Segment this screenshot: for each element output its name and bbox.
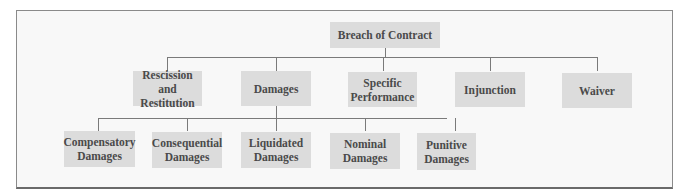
- node-liquidated-damages: Liquidated Damages: [241, 132, 311, 168]
- node-label: Rescission and Restitution: [136, 68, 199, 110]
- connector-to-injunction: [490, 57, 491, 71]
- connector-to-nominal: [365, 118, 366, 131]
- node-label: Waiver: [579, 84, 615, 98]
- connector-to-waiver: [597, 57, 598, 71]
- connector-to-damages: [276, 57, 277, 71]
- connector-damages-down: [276, 106, 277, 118]
- connector-to-compensatory: [98, 118, 99, 131]
- connector-level2-bar: [98, 118, 447, 119]
- node-label: Specific Performance: [351, 76, 415, 104]
- node-label: Compensatory Damages: [63, 135, 135, 163]
- connector-to-liquidated: [276, 118, 277, 131]
- node-label: Nominal Damages: [333, 137, 397, 165]
- node-label: Punitive Damages: [420, 138, 473, 166]
- node-rescission-and-restitution: Rescission and Restitution: [133, 71, 202, 106]
- node-nominal-damages: Nominal Damages: [330, 133, 400, 169]
- connector-to-consequential: [187, 118, 188, 131]
- node-consequential-damages: Consequential Damages: [152, 132, 222, 168]
- node-damages: Damages: [241, 71, 311, 106]
- node-label: Damages: [254, 82, 299, 96]
- node-label: Injunction: [464, 83, 516, 97]
- node-breach-of-contract: Breach of Contract: [330, 22, 440, 48]
- node-label: Breach of Contract: [338, 28, 432, 42]
- node-label: Consequential Damages: [152, 136, 222, 164]
- connector-root-down: [385, 48, 386, 57]
- node-injunction: Injunction: [455, 72, 525, 107]
- node-waiver: Waiver: [562, 73, 632, 108]
- node-label: Liquidated Damages: [244, 136, 308, 164]
- connector-to-specific-performance: [383, 57, 384, 71]
- node-specific-performance: Specific Performance: [348, 72, 417, 107]
- connector-to-punitive: [455, 118, 456, 131]
- node-punitive-damages: Punitive Damages: [417, 133, 476, 170]
- node-compensatory-damages: Compensatory Damages: [64, 131, 135, 167]
